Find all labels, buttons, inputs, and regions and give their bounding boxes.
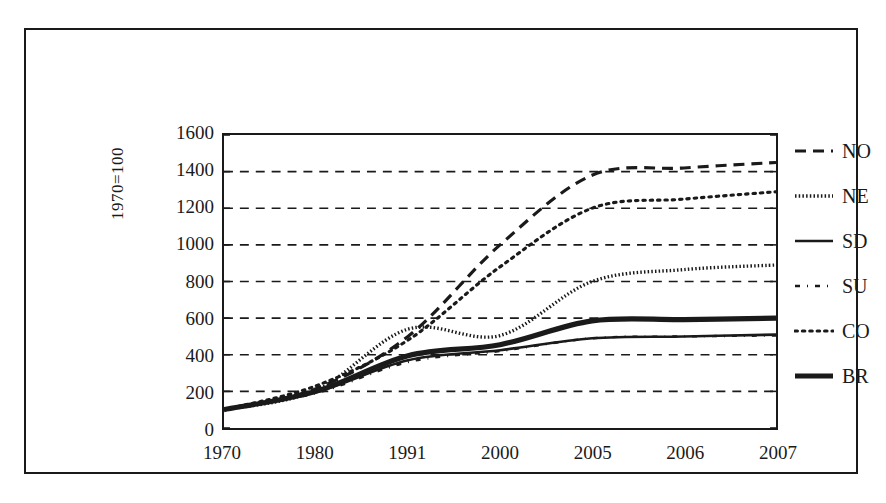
legend-key-icon xyxy=(794,234,834,248)
legend-item-sd[interactable]: SD xyxy=(794,228,886,254)
x-tick-label: 2005 xyxy=(558,442,628,464)
legend-key-icon xyxy=(794,324,834,338)
y-axis-title: 1970=100 xyxy=(108,80,128,220)
y-tick-label: 600 xyxy=(144,309,214,328)
legend-label: BR xyxy=(842,363,869,389)
legend-label: SD xyxy=(842,228,868,254)
y-axis-tick-labels: 02004006008001000120014001600 xyxy=(144,30,214,476)
legend-key-svg xyxy=(794,144,834,158)
series-line-no xyxy=(224,162,776,409)
y-tick-label: 200 xyxy=(144,383,214,402)
x-tick-label: 2007 xyxy=(743,442,813,464)
x-tick-label: 1980 xyxy=(280,442,350,464)
y-tick-label: 0 xyxy=(144,420,214,439)
plot-area xyxy=(222,133,778,430)
legend-item-br[interactable]: BR xyxy=(794,363,886,389)
legend-item-ne[interactable]: NE xyxy=(794,183,886,209)
y-tick-label: 400 xyxy=(144,346,214,365)
chart-svg xyxy=(224,135,776,428)
x-tick-label: 1991 xyxy=(372,442,442,464)
series-line-co xyxy=(224,192,776,410)
legend-key-icon xyxy=(794,189,834,203)
x-tick-label: 2000 xyxy=(465,442,535,464)
chart-legend: NONESDSUCOBR xyxy=(794,138,886,418)
legend-key-icon xyxy=(794,144,834,158)
legend-key-svg xyxy=(794,189,834,203)
series-line-br xyxy=(224,318,776,410)
y-tick-label: 1400 xyxy=(144,160,214,179)
legend-key-icon xyxy=(794,369,834,383)
legend-key-svg xyxy=(794,324,834,338)
legend-label: CO xyxy=(842,318,870,344)
legend-key-svg xyxy=(794,234,834,248)
legend-label: SU xyxy=(842,273,868,299)
legend-key-svg xyxy=(794,369,834,383)
legend-item-co[interactable]: CO xyxy=(794,318,886,344)
legend-key-svg xyxy=(794,279,834,293)
legend-item-su[interactable]: SU xyxy=(794,273,886,299)
legend-label: NE xyxy=(842,183,869,209)
y-tick-label: 1200 xyxy=(144,197,214,216)
figure-border: 1970=100 02004006008001000120014001600 1… xyxy=(24,28,858,474)
legend-label: NO xyxy=(842,138,871,164)
y-tick-label: 1000 xyxy=(144,234,214,253)
y-tick-label: 800 xyxy=(144,272,214,291)
x-tick-label: 2006 xyxy=(650,442,720,464)
y-tick-label: 1600 xyxy=(144,123,214,142)
legend-item-no[interactable]: NO xyxy=(794,138,886,164)
legend-key-icon xyxy=(794,279,834,293)
x-tick-label: 1970 xyxy=(187,442,257,464)
x-axis-tick-labels: 1970198019912000200520062007 xyxy=(222,442,778,472)
